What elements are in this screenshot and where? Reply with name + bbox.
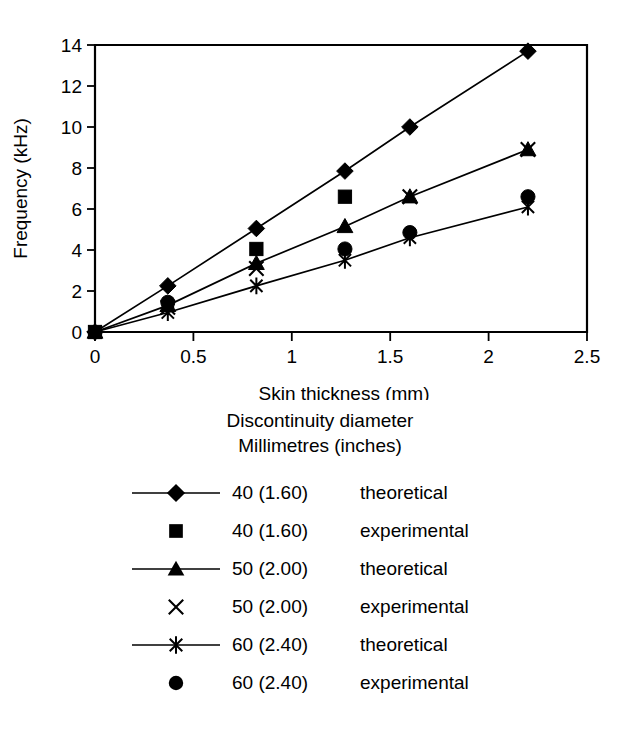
x-tick-label-2.5: 2.5 [574, 346, 600, 367]
legend-kind-label: experimental [360, 520, 469, 542]
legend-kind-label: theoretical [360, 634, 448, 656]
x-tick-label-0.5: 0.5 [180, 346, 206, 367]
legend-key-triangle [126, 556, 226, 582]
legend-title: Discontinuity diameter Millimetres (inch… [0, 408, 622, 458]
frequency-vs-skin-thickness-chart: 0246810121400.511.522.5Skin thickness (m… [0, 0, 622, 400]
legend-diameter-label: 50 (2.00) [228, 596, 360, 618]
series-5-pt-2-circle-marker [403, 226, 417, 240]
series-4-pt-2-star-marker [250, 277, 262, 294]
series-1-pt-1-square-marker [250, 242, 263, 255]
series-5-pt-0-circle-marker [161, 295, 175, 309]
series-0-pt-3-diamond-marker [337, 163, 354, 180]
x-axis-title: Skin thickness (mm) [258, 383, 429, 400]
x-tick-label-1.5: 1.5 [377, 346, 403, 367]
y-tick-label-4: 4 [71, 240, 82, 261]
series-markers-5 [161, 190, 535, 310]
y-tick-label-14: 14 [61, 35, 83, 56]
legend-marker-square [169, 524, 183, 538]
legend-marker-x [169, 600, 183, 614]
series-0-pt-4-diamond-marker [402, 119, 419, 136]
legend-key-diamond [126, 480, 226, 506]
legend-key-cell [124, 480, 228, 506]
legend-row[interactable]: 50 (2.00)theoretical [124, 550, 622, 588]
y-tick-label-12: 12 [61, 76, 82, 97]
series-markers-0 [87, 43, 537, 340]
x-tick-label-1: 1 [287, 346, 298, 367]
series-2-pt-3-triangle-marker [337, 219, 353, 233]
legend-rows: 40 (1.60)theoretical40 (1.60)experimenta… [0, 474, 622, 702]
legend-title-line1: Discontinuity diameter [18, 408, 622, 433]
series-0-pt-2-diamond-marker [248, 220, 265, 237]
legend-diameter-label: 60 (2.40) [228, 634, 360, 656]
y-tick-label-0: 0 [71, 322, 82, 343]
y-tick-label-8: 8 [71, 158, 82, 179]
legend-diameter-label: 40 (1.60) [228, 482, 360, 504]
series-5-pt-3-circle-marker [521, 190, 535, 204]
legend-kind-label: experimental [360, 596, 469, 618]
x-tick-label-2: 2 [483, 346, 494, 367]
legend-marker-circle [169, 676, 183, 690]
series-line-0 [95, 51, 528, 332]
legend-key-square [126, 518, 226, 544]
y-tick-label-2: 2 [71, 281, 82, 302]
legend-row[interactable]: 60 (2.40)experimental [124, 664, 622, 702]
legend-key-cell [124, 594, 228, 620]
series-line-4 [95, 207, 528, 332]
x-tick-label-0: 0 [90, 346, 101, 367]
legend-key-cell [124, 670, 228, 696]
legend-key-cell [124, 556, 228, 582]
series-markers-1 [88, 190, 351, 339]
legend-kind-label: theoretical [360, 482, 448, 504]
legend-key-cell [124, 518, 228, 544]
series-5-pt-1-circle-marker [338, 242, 352, 256]
figure-root: 0246810121400.511.522.5Skin thickness (m… [0, 0, 622, 729]
legend-key-star [126, 632, 226, 658]
series-line-2 [95, 150, 528, 332]
legend-key-circle [126, 670, 226, 696]
y-tick-label-10: 10 [61, 117, 82, 138]
legend-kind-label: theoretical [360, 558, 448, 580]
legend-diameter-label: 40 (1.60) [228, 520, 360, 542]
series-0-pt-1-diamond-marker [160, 278, 177, 295]
legend-row[interactable]: 40 (1.60)experimental [124, 512, 622, 550]
legend-row[interactable]: 50 (2.00)experimental [124, 588, 622, 626]
legend-title-line2: Millimetres (inches) [18, 433, 622, 458]
y-tick-label-6: 6 [71, 199, 82, 220]
legend-diameter-label: 60 (2.40) [228, 672, 360, 694]
legend-marker-diamond [167, 484, 185, 502]
legend-key-x [126, 594, 226, 620]
series-1-pt-2-square-marker [338, 190, 351, 203]
legend-row[interactable]: 60 (2.40)theoretical [124, 626, 622, 664]
legend-key-cell [124, 632, 228, 658]
legend-diameter-label: 50 (2.00) [228, 558, 360, 580]
legend-kind-label: experimental [360, 672, 469, 694]
chart-legend: Discontinuity diameter Millimetres (inch… [0, 408, 622, 702]
plot-area-wrapper: 0246810121400.511.522.5Skin thickness (m… [0, 0, 622, 400]
y-axis-title: Frequency (kHz) [10, 118, 31, 258]
legend-marker-triangle [168, 561, 185, 576]
legend-row[interactable]: 40 (1.60)theoretical [124, 474, 622, 512]
